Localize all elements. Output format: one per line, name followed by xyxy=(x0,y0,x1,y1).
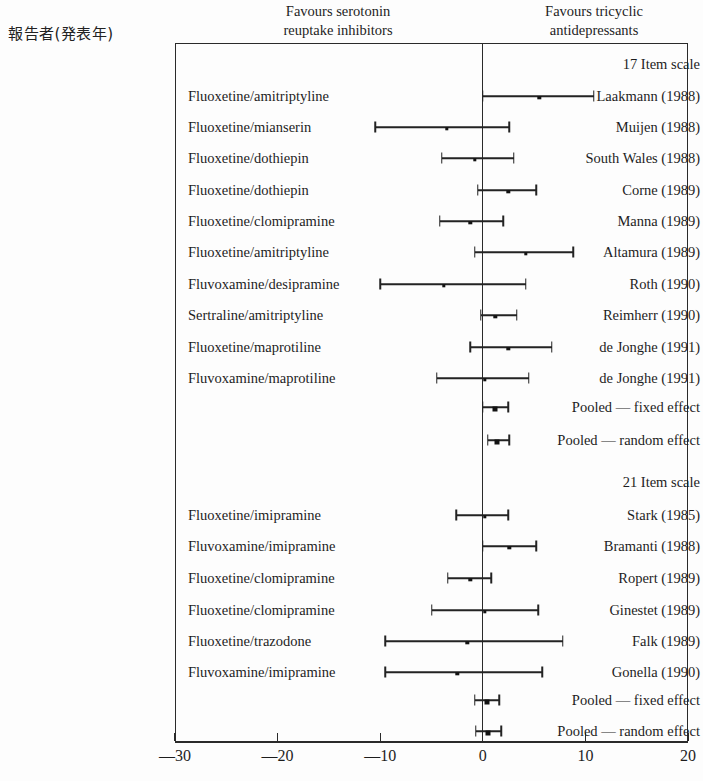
comparison-label: Fluvoxamine/maprotiline xyxy=(188,370,335,387)
confidence-interval-cap xyxy=(593,91,595,102)
axis-tick xyxy=(482,733,483,741)
confidence-interval-cap xyxy=(508,402,510,413)
comparison-label: Fluoxetine/clomipramine xyxy=(188,213,335,230)
left-column-title: 報告者(発表年) xyxy=(8,22,114,43)
comparison-label: Fluvoxamine/imipramine xyxy=(188,538,335,555)
axis-tick-label: —30 xyxy=(159,747,191,765)
confidence-interval-cap xyxy=(509,435,511,446)
confidence-interval-line xyxy=(380,283,526,285)
comparison-label: Fluoxetine/mianserin xyxy=(188,119,311,136)
comparison-label: Fluvoxamine/desipramine xyxy=(188,276,339,293)
confidence-interval-cap xyxy=(385,636,387,647)
point-estimate-marker xyxy=(493,315,496,318)
confidence-interval-cap xyxy=(535,541,537,552)
confidence-interval-cap xyxy=(475,726,477,737)
study-label: Corne (1989) xyxy=(531,182,703,199)
study-label: Ginestet (1989) xyxy=(531,602,703,619)
confidence-interval-cap xyxy=(572,247,574,258)
confidence-interval-cap xyxy=(374,122,376,133)
axis-tick-label: 20 xyxy=(680,747,696,765)
axis-tick xyxy=(380,733,381,741)
confidence-interval-cap xyxy=(441,153,443,164)
axis-tick-label: —10 xyxy=(364,747,396,765)
axis-tick-label: 0 xyxy=(479,747,487,765)
confidence-interval-cap xyxy=(474,695,476,706)
study-label: Pooled — fixed effect xyxy=(531,692,703,709)
axis-tick-label: 10 xyxy=(577,747,593,765)
study-label: Pooled — random effect xyxy=(531,432,703,449)
study-label: Stark (1985) xyxy=(531,507,703,524)
x-axis-line xyxy=(175,741,688,743)
study-label: South Wales (1988) xyxy=(531,150,703,167)
confidence-interval-cap xyxy=(501,726,503,737)
confidence-interval-cap xyxy=(470,342,472,353)
axis-tick xyxy=(277,733,278,741)
confidence-interval-line xyxy=(470,346,551,348)
point-estimate-marker xyxy=(493,407,498,412)
confidence-interval-line xyxy=(375,126,509,128)
point-estimate-marker xyxy=(483,378,486,381)
favours-left-label: Favours serotonin reuptake inhibitors xyxy=(243,2,433,39)
study-label: Muijen (1988) xyxy=(531,119,703,136)
comparison-label: Fluoxetine/dothiepin xyxy=(188,150,309,167)
confidence-interval-cap xyxy=(503,216,505,227)
favours-right-label: Favours tricyclic antidepressants xyxy=(505,2,683,39)
axis-tick xyxy=(174,733,175,741)
study-label: Gonella (1990) xyxy=(531,664,703,681)
confidence-interval-cap xyxy=(385,667,387,678)
confidence-interval-cap xyxy=(431,605,433,616)
point-estimate-marker xyxy=(483,515,486,518)
confidence-interval-cap xyxy=(537,605,539,616)
comparison-label: Fluvoxamine/imipramine xyxy=(188,664,335,681)
study-label: de Jonghe (1991) xyxy=(531,370,703,387)
confidence-interval-cap xyxy=(482,91,484,102)
study-label: Reimherr (1990) xyxy=(531,307,703,324)
study-label: Pooled — random effect xyxy=(531,723,703,740)
confidence-interval-cap xyxy=(482,402,484,413)
confidence-interval-cap xyxy=(509,122,511,133)
confidence-interval-cap xyxy=(436,373,438,384)
comparison-label: Fluoxetine/imipramine xyxy=(188,507,321,524)
confidence-interval-cap xyxy=(439,216,441,227)
confidence-interval-cap xyxy=(482,541,484,552)
study-label: Manna (1989) xyxy=(531,213,703,230)
study-label: Pooled — fixed effect xyxy=(531,399,703,416)
confidence-interval-cap xyxy=(447,573,449,584)
comparison-label: Fluoxetine/amitriptyline xyxy=(188,244,329,261)
point-estimate-marker xyxy=(469,578,472,581)
comparison-label: Fluoxetine/clomipramine xyxy=(188,602,335,619)
confidence-interval-cap xyxy=(480,310,482,321)
point-estimate-marker xyxy=(524,252,527,255)
study-label: Ropert (1989) xyxy=(531,570,703,587)
point-estimate-marker xyxy=(495,440,500,445)
comparison-label: Fluoxetine/amitriptyline xyxy=(188,88,329,105)
point-estimate-marker xyxy=(483,610,486,613)
confidence-interval-line xyxy=(385,671,542,673)
confidence-interval-cap xyxy=(487,435,489,446)
confidence-interval-line xyxy=(385,640,562,642)
confidence-interval-cap xyxy=(528,373,530,384)
study-label: Bramanti (1988) xyxy=(531,538,703,555)
confidence-interval-cap xyxy=(474,247,476,258)
zero-reference-line xyxy=(482,43,483,741)
group-heading-label: 17 Item scale xyxy=(531,56,703,73)
point-estimate-marker xyxy=(469,221,472,224)
confidence-interval-cap xyxy=(508,510,510,521)
study-label: Roth (1990) xyxy=(531,276,703,293)
point-estimate-marker xyxy=(473,158,476,161)
point-estimate-marker xyxy=(484,700,489,705)
confidence-interval-cap xyxy=(477,185,479,196)
point-estimate-marker xyxy=(445,127,448,130)
confidence-interval-cap xyxy=(513,153,515,164)
confidence-interval-cap xyxy=(455,510,457,521)
comparison-label: Sertraline/amitriptyline xyxy=(188,307,323,324)
comparison-label: Fluoxetine/clomipramine xyxy=(188,570,335,587)
study-label: de Jonghe (1991) xyxy=(531,339,703,356)
point-estimate-marker xyxy=(508,546,511,549)
confidence-interval-cap xyxy=(490,573,492,584)
confidence-interval-cap xyxy=(542,667,544,678)
comparison-label: Fluoxetine/maprotiline xyxy=(188,339,321,356)
confidence-interval-cap xyxy=(516,310,518,321)
point-estimate-marker xyxy=(507,190,510,193)
point-estimate-marker xyxy=(507,347,510,350)
